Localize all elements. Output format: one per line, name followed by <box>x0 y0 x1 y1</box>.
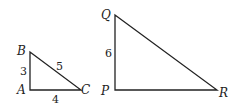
triangle-abc: B A C 3 4 5 <box>16 44 90 106</box>
triangle-pqr-shape <box>115 15 217 90</box>
vertex-label-a: A <box>16 83 26 97</box>
side-label-pq: 6 <box>105 47 112 60</box>
vertex-label-r: R <box>218 86 228 100</box>
vertex-label-c: C <box>81 83 90 97</box>
side-label-bc: 5 <box>56 60 63 73</box>
vertex-label-p: P <box>100 84 110 98</box>
vertex-label-q: Q <box>101 8 111 22</box>
triangle-pqr: Q P R 6 <box>100 8 228 100</box>
vertex-label-b: B <box>16 44 26 58</box>
similar-triangles-diagram: B A C 3 4 5 Q P R 6 <box>0 0 240 107</box>
side-label-ac: 4 <box>52 93 59 106</box>
side-label-ab: 3 <box>20 65 27 78</box>
